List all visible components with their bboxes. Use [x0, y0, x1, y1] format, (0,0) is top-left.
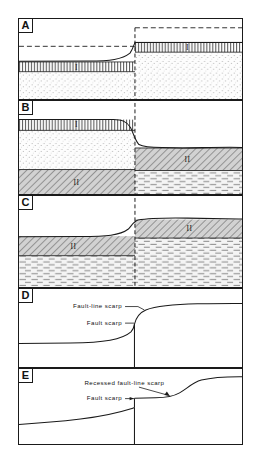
panel-d-label: D — [18, 288, 33, 303]
panel-e: E Recessed fault-line scarp Fault scarp — [18, 368, 243, 445]
panel-a-label: A — [18, 18, 33, 33]
unit-label-II-left-c: II — [71, 242, 77, 251]
panel-c-label: C — [18, 195, 33, 210]
unit-label-I-left-a: I — [75, 63, 78, 72]
panel-d: D Fault-line scarp Fault scarp — [18, 288, 243, 368]
unit-label-II-right-b: II — [185, 155, 191, 164]
panel-e-diagram: Recessed fault-line scarp Fault scarp — [19, 369, 242, 444]
panel-c: C — [18, 195, 243, 288]
annotation-fault-line-scarp-d: Fault-line scarp — [73, 303, 122, 310]
panel-d-diagram: Fault-line scarp Fault scarp — [19, 289, 242, 367]
panel-e-label: E — [18, 368, 33, 383]
annotation-fault-scarp-e: Fault scarp — [87, 394, 122, 401]
panel-b-label: B — [18, 100, 33, 115]
panel-a: A — [18, 18, 243, 100]
unit-label-II-left-b: II — [74, 178, 80, 187]
panel-b: B — [18, 100, 243, 195]
panel-a-diagram: I I — [19, 19, 242, 99]
fault-scarp-figure: A — [0, 0, 258, 452]
unit-label-I-left-b: I — [75, 120, 78, 129]
panel-c-diagram: II II — [19, 196, 242, 287]
panel-b-diagram: I II II — [19, 101, 242, 194]
unit-label-I-right-a: I — [186, 43, 189, 52]
annotation-recessed-fault-line-scarp-e: Recessed fault-line scarp — [84, 379, 164, 386]
annotation-fault-scarp-d: Fault scarp — [87, 319, 122, 326]
unit-label-II-right-c: II — [186, 224, 192, 233]
